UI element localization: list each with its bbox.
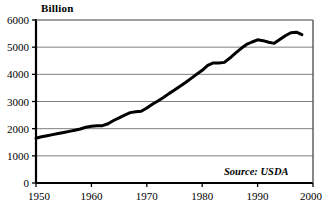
source-attribution: Source: USDA — [224, 166, 288, 177]
y-tick-label: 4000 — [7, 68, 30, 80]
y-axis-tick-labels: 0100020003000400050006000 — [7, 14, 30, 189]
x-tick-label: 2000 — [300, 190, 323, 202]
chart-figure: Billion 0100020003000400050006000 195019… — [0, 0, 332, 209]
x-axis-tick-labels: 195019601970198019902000 — [28, 190, 323, 202]
x-tick-label: 1960 — [80, 190, 103, 202]
grid-lines — [36, 20, 313, 156]
y-tick-label: 1000 — [7, 150, 30, 162]
y-tick-label: 0 — [24, 177, 30, 189]
x-tick-label: 1990 — [247, 190, 270, 202]
x-tick-label: 1980 — [191, 190, 214, 202]
x-tick-label: 1970 — [136, 190, 159, 202]
x-tick-label: 1950 — [28, 190, 51, 202]
line-chart-plot: 0100020003000400050006000 19501960197019… — [0, 0, 332, 209]
y-tick-label: 5000 — [7, 41, 30, 53]
y-tick-label: 2000 — [7, 123, 30, 135]
data-series-line — [36, 32, 302, 138]
y-tick-label: 6000 — [7, 14, 30, 26]
y-tick-label: 3000 — [7, 96, 30, 108]
